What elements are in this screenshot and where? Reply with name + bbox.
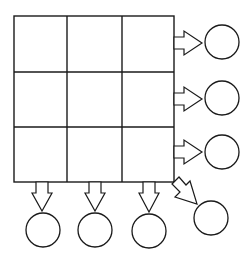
diagonal-arrow-icon <box>172 177 197 204</box>
column-1-result-circle <box>26 213 60 247</box>
grid-border <box>14 16 174 182</box>
row-2-result-circle <box>205 81 239 115</box>
row-2-arrow-icon <box>174 87 202 111</box>
diagonal-result-circle <box>194 201 228 235</box>
row-1-arrow-icon <box>174 31 202 55</box>
diagonal-arrow <box>172 177 197 204</box>
column-3-result-circle <box>132 214 166 248</box>
column-arrows <box>32 182 159 212</box>
row-3-result-circle <box>205 135 239 169</box>
row-3-arrow-icon <box>174 140 202 164</box>
row-arrows <box>174 31 202 164</box>
column-2-arrow-icon <box>85 182 105 211</box>
grid-diagram <box>0 0 247 257</box>
column-1-arrow-icon <box>32 182 52 211</box>
row-1-result-circle <box>205 25 239 59</box>
diagram-canvas <box>0 0 247 257</box>
column-circles <box>26 213 166 248</box>
column-3-arrow-icon <box>139 182 159 212</box>
column-2-result-circle <box>78 213 112 247</box>
grid <box>14 16 174 182</box>
row-circles <box>205 25 239 169</box>
